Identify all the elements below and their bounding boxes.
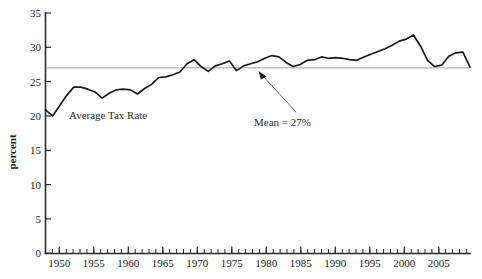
x-axis-tick-labels: 1950 1955 1960 1965 1970 1975 1980 1985 …: [48, 257, 450, 269]
y-axis-ticks: [46, 13, 52, 253]
chart-figure: 35 30 25 20 15 10 5 0 percent: [0, 0, 482, 279]
y-axis-tick-labels: 35 30 25 20 15 10 5 0: [30, 7, 42, 259]
y-tick-label-20: 20: [30, 110, 42, 122]
mean-callout: Mean = 27%: [254, 71, 311, 128]
average-tax-rate-series: [46, 35, 471, 116]
x-tick-label-1990: 1990: [324, 257, 347, 269]
x-tick-label-1995: 1995: [359, 257, 382, 269]
y-tick-label-35: 35: [30, 7, 42, 19]
y-tick-label-5: 5: [36, 213, 42, 225]
x-tick-label-1970: 1970: [186, 257, 209, 269]
y-tick-label-25: 25: [30, 76, 42, 88]
y-tick-label-10: 10: [30, 179, 42, 191]
x-tick-label-2000: 2000: [393, 257, 416, 269]
x-tick-label-1965: 1965: [152, 257, 175, 269]
x-tick-label-1955: 1955: [83, 257, 106, 269]
average-tax-rate-line-chart: 35 30 25 20 15 10 5 0 percent: [0, 0, 482, 279]
x-tick-label-1960: 1960: [117, 257, 140, 269]
x-axis-major-ticks: [59, 247, 439, 254]
x-tick-label-1950: 1950: [48, 257, 71, 269]
series-label: Average Tax Rate: [69, 109, 147, 121]
x-tick-label-2005: 2005: [428, 257, 451, 269]
x-tick-label-1985: 1985: [290, 257, 313, 269]
mean-callout-label: Mean = 27%: [254, 116, 311, 128]
y-tick-label-30: 30: [30, 41, 42, 53]
y-axis-title: percent: [6, 134, 18, 170]
y-tick-label-0: 0: [36, 247, 42, 259]
x-tick-label-1975: 1975: [221, 257, 244, 269]
x-tick-label-1980: 1980: [255, 257, 278, 269]
y-tick-label-15: 15: [30, 144, 42, 156]
